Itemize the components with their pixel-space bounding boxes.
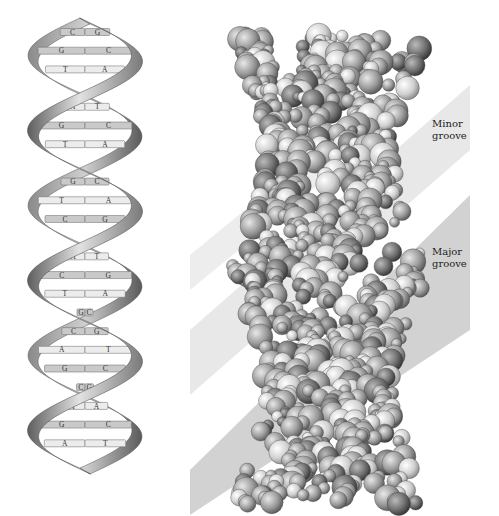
dna-figure: CGGCTAATGCTAGCTACGATCGTAGCCGATGCCGTAGCAT… [0,0,499,516]
base-right: C [94,177,99,186]
base-left: C [59,271,64,280]
base-right: A [102,289,108,298]
atom-sphere [281,416,303,438]
base-pair: TA [38,196,132,205]
base-right: T [95,102,100,111]
atom-sphere [350,254,368,272]
atom-sphere [396,76,420,100]
base-pair: CG [45,215,125,224]
base-pair: GC [38,121,132,130]
base-right: C [106,121,111,130]
atom-sphere [358,69,383,94]
atom-sphere [277,322,288,333]
base-right: C [106,420,111,429]
base-pair: TA [46,65,125,74]
atom-sphere [239,496,256,513]
base-pair: TA [45,289,125,298]
atom-sphere [235,54,260,79]
base-left: G [78,308,84,317]
base-pair: TA [45,140,124,149]
major-groove-label-line1: Major [432,246,467,258]
base-pair: GC [45,364,126,373]
base-right: T [94,252,99,261]
base-left: T [63,65,68,74]
base-right: C [106,46,111,55]
base-pair: AT [44,439,125,448]
base-right: G [106,271,112,280]
atom-sphere [338,271,348,281]
atom-sphere [374,257,393,276]
base-left: T [59,196,64,205]
base-right: C [86,308,91,317]
atom-sphere [408,496,422,510]
base-left: A [59,345,65,354]
base-left: A [62,439,68,448]
minor-groove-label-line1: Minor [432,118,467,130]
base-right: A [106,196,112,205]
base-left: C [70,28,75,37]
atom-sphere [387,492,410,515]
base-pair: GC [77,308,93,317]
base-right: A [94,402,100,411]
base-left: G [62,364,68,373]
base-right: C [103,364,108,373]
atom-sphere [260,491,283,514]
base-pair: GC [39,420,132,429]
atom-sphere [336,30,348,42]
base-right: T [106,345,111,354]
base-pair: AT [38,345,131,354]
dna-illustration: CGGCTAATGCTAGCTACGATCGTAGCCGATGCCGTAGCAT [0,0,499,516]
base-right: G [95,28,101,37]
base-left: C [63,215,68,224]
base-pair: GC [38,46,132,55]
base-left: C [71,327,76,336]
major-groove-label-line2: groove [432,258,467,270]
major-groove-label: Major groove [432,246,467,270]
atom-sphere [382,79,395,92]
minor-groove-label-line2: groove [432,130,467,142]
base-pair: CG [38,271,131,280]
atom-sphere [297,489,309,501]
base-left: T [63,140,68,149]
minor-groove-label: Minor groove [432,118,467,142]
base-right: T [103,439,108,448]
base-right: G [102,215,108,224]
atom-sphere [287,330,298,341]
base-left: C [78,383,83,392]
base-left: G [59,46,65,55]
base-left: G [59,420,65,429]
ribbon-model: CGGCTAATGCTAGCTACGATCGTAGCCGATGCCGTAGCAT [28,18,143,474]
base-right: A [102,65,108,74]
base-left: G [70,177,76,186]
base-left: T [63,289,68,298]
base-left: G [59,121,65,130]
atom-sphere [330,492,347,509]
atom-sphere [390,217,400,227]
base-right: A [102,140,108,149]
